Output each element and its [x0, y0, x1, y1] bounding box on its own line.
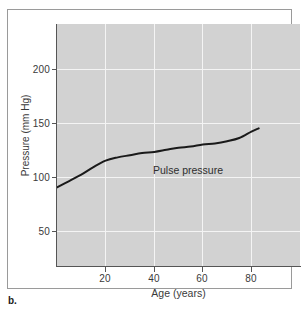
y-tick-200 [52, 69, 57, 70]
y-ticklabel-50: 50 [24, 226, 50, 237]
pulse-pressure-curve [57, 24, 300, 266]
x-tick-80 [251, 267, 252, 272]
series-annotation-pulse-pressure: Pulse pressure [153, 164, 223, 176]
x-ticklabel-20: 20 [93, 273, 117, 284]
figure-frame: Pulse pressure 200 150 100 50 20 40 60 8… [7, 9, 292, 289]
panel-caption: b. [8, 295, 17, 306]
x-tick-40 [154, 267, 155, 272]
y-axis-title: Pressure (mm Hg) [20, 56, 31, 216]
x-axis-line [56, 266, 301, 267]
x-tick-20 [105, 267, 106, 272]
x-ticklabel-60: 60 [190, 273, 214, 284]
x-ticklabel-80: 80 [239, 273, 263, 284]
x-ticklabel-40: 40 [142, 273, 166, 284]
y-tick-150 [52, 123, 57, 124]
x-axis-title: Age (years) [57, 287, 300, 299]
y-tick-50 [52, 231, 57, 232]
x-tick-60 [202, 267, 203, 272]
y-tick-100 [52, 177, 57, 178]
plot-area: Pulse pressure [57, 24, 300, 266]
